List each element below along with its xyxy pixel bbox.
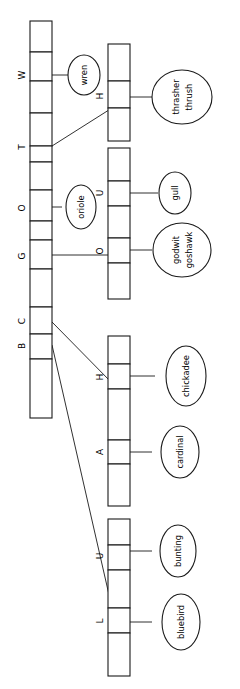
main-cell-6[interactable] xyxy=(30,190,52,221)
sub-ul-cell-4[interactable] xyxy=(108,633,130,676)
leaf-wren-label: wren xyxy=(79,65,89,85)
sub-h-cell-1[interactable] xyxy=(108,81,130,108)
sub-table-ul[interactable]: U L xyxy=(95,519,131,676)
main-index-label-t: T xyxy=(17,144,27,151)
main-cell-0[interactable] xyxy=(30,21,52,52)
sub-h-cell-2[interactable] xyxy=(108,108,130,141)
main-index-label-b: B xyxy=(17,343,27,349)
leaf-goshawk-label: goshawk xyxy=(184,232,194,269)
main-cell-11[interactable] xyxy=(30,334,52,359)
main-index-label-o: O xyxy=(17,204,27,211)
leaf-oriole[interactable]: oriole xyxy=(66,185,96,229)
leaf-thrasher-thrush[interactable]: thrasher thrush xyxy=(152,70,212,124)
leaf-godwit-goshawk[interactable]: godwit goshawk xyxy=(153,223,211,277)
sub-ha-cell-1[interactable] xyxy=(108,364,130,389)
main-cell-10[interactable] xyxy=(30,307,52,334)
main-cell-2[interactable] xyxy=(30,81,52,113)
link-b-to-subtable-ul xyxy=(52,345,112,608)
sub-ul-cell-2[interactable] xyxy=(108,570,130,608)
leaf-thrasher-label: thrasher xyxy=(171,79,181,115)
leaf-cardinal[interactable]: cardinal xyxy=(161,426,199,478)
sub-ha-cell-2[interactable] xyxy=(108,389,130,440)
main-index-label-g: G xyxy=(17,252,27,259)
leaf-godwit-label: godwit xyxy=(171,235,181,264)
sub-table-ha[interactable]: H A xyxy=(95,336,131,506)
sub-uo-cell-4[interactable] xyxy=(108,263,130,299)
main-index-labels: W T O G C B xyxy=(17,70,27,349)
sub-uo-cell-0[interactable] xyxy=(108,148,130,181)
sub-ha-index-label-a: A xyxy=(95,448,105,455)
sub-table-h[interactable]: H xyxy=(95,44,131,141)
sub-uo-cell-2[interactable] xyxy=(108,206,130,238)
leaf-gull[interactable]: gull xyxy=(159,172,191,214)
main-cell-8[interactable] xyxy=(30,240,52,269)
sub-ul-cell-3[interactable] xyxy=(108,608,130,633)
connector-links xyxy=(52,75,158,622)
primary-hash-table[interactable] xyxy=(30,21,52,418)
sub-uo-cell-3[interactable] xyxy=(108,238,130,263)
sub-ha-index-label-h: H xyxy=(95,374,105,381)
sub-ul-index-label-u: U xyxy=(95,553,105,560)
leaf-cardinal-label: cardinal xyxy=(175,435,185,468)
leaf-gull-label: gull xyxy=(170,185,180,200)
main-index-label-w: W xyxy=(17,70,27,79)
main-cell-5[interactable] xyxy=(30,162,52,190)
sub-table-uo[interactable]: U O xyxy=(95,148,131,299)
leaf-chickadee[interactable]: chickadee xyxy=(166,346,206,406)
sub-uo-index-label-u: U xyxy=(95,190,105,197)
leaf-thrasher-thrush-shape[interactable] xyxy=(152,70,212,124)
sub-ul-index-label-l: L xyxy=(95,618,105,623)
sub-h-index-label-h: H xyxy=(95,93,105,100)
sub-uo-index-label-o: O xyxy=(95,247,105,254)
leaf-nodes[interactable]: wren thrasher thrush oriole gull god xyxy=(66,55,212,650)
hash-table-diagram: W T O G C B H U O xyxy=(0,0,240,689)
leaf-bunting[interactable]: bunting xyxy=(160,525,196,577)
leaf-chickadee-label: chickadee xyxy=(181,355,191,397)
main-cell-4[interactable] xyxy=(30,146,52,162)
sub-h-cell-0[interactable] xyxy=(108,44,130,81)
main-index-label-c: C xyxy=(17,318,27,324)
main-cell-12[interactable] xyxy=(30,359,52,418)
main-cell-7[interactable] xyxy=(30,221,52,240)
main-cell-1[interactable] xyxy=(30,52,52,81)
leaf-bluebird[interactable]: bluebird xyxy=(162,594,200,650)
leaf-thrush-label: thrush xyxy=(184,84,194,111)
sub-ha-cell-4[interactable] xyxy=(108,464,130,506)
sub-ha-cell-3[interactable] xyxy=(108,440,130,464)
sub-ul-cell-1[interactable] xyxy=(108,545,130,570)
sub-uo-cell-1[interactable] xyxy=(108,181,130,206)
leaf-oriole-label: oriole xyxy=(76,195,86,218)
leaf-godwit-goshawk-shape[interactable] xyxy=(153,223,211,277)
main-cell-3[interactable] xyxy=(30,113,52,146)
link-t-to-subtable-h xyxy=(52,108,112,146)
diagram-canvas: W T O G C B H U O xyxy=(0,0,240,689)
leaf-bunting-label: bunting xyxy=(173,535,183,567)
sub-ha-cell-0[interactable] xyxy=(108,336,130,364)
leaf-bluebird-label: bluebird xyxy=(176,605,186,639)
leaf-wren[interactable]: wren xyxy=(68,55,100,95)
main-cell-9[interactable] xyxy=(30,269,52,307)
sub-ul-cell-0[interactable] xyxy=(108,519,130,545)
